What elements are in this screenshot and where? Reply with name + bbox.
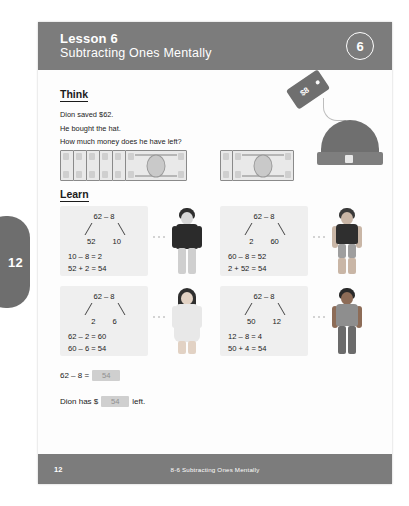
lesson-header: Lesson 6 Subtracting Ones Mentally 6 [38,22,392,70]
price-tag-amount: $8 [298,86,310,98]
number-bond-part-right: 12 [273,317,281,326]
worksheet-page: 12 Lesson 6 Subtracting Ones Mentally 6 … [0,0,409,506]
number-bond-expression: 62 – 8 [60,212,148,221]
lesson-number-badge: 6 [346,32,374,60]
footer-lesson-title: 8-6 Subtracting Ones Mentally [38,466,392,473]
money-illustration [60,148,372,184]
strategy-cell: 62 – 8 50 12 12 – 8 = 4 50 + 4 = 54 [220,286,370,356]
bill-portrait [147,154,166,177]
one-dollar-bill-front [232,150,294,181]
number-bond-parts: 52 10 [60,237,148,246]
number-bond-part-right: 6 [113,317,117,326]
student-figure-icon [164,288,210,356]
think-line-3: How much money does he have left? [60,135,182,149]
number-bond-work-box: 62 – 8 2 60 60 – 8 = 52 2 + 52 = 54 [220,206,308,276]
number-bond-branch-icon [60,223,148,237]
chapter-index-tab[interactable]: 12 [0,216,30,308]
ten-dollar-bill [86,150,100,181]
one-dollar-bill-stack [220,150,293,181]
worksheet-body: Think Dion saved $62. He bought the hat.… [38,70,392,454]
number-bond-work-box: 62 – 8 2 6 62 – 2 = 60 60 – 6 = 54 [60,286,148,356]
step-1: 10 – 8 = 2 [68,251,148,263]
number-bond-parts: 2 6 [60,317,148,326]
strategy-cell: 62 – 8 2 6 62 – 2 = 60 60 – 6 = 54 [60,286,210,356]
think-line-1: Dion saved $62. [60,108,182,122]
number-bond-expression: 62 – 8 [60,292,148,301]
learn-strategy-grid: 62 – 8 52 10 10 – 8 = 2 52 + 2 = 54 [60,206,372,358]
lesson-label: Lesson 6 [60,31,212,46]
ten-dollar-bill-stack [60,150,186,181]
student-figure-icon [324,208,370,276]
ten-dollar-bill-front [125,150,187,181]
lesson-title: Subtracting Ones Mentally [60,46,212,61]
bill-portrait [254,154,273,177]
number-bond-steps: 12 – 8 = 4 50 + 4 = 54 [228,331,308,355]
step-1: 62 – 2 = 60 [68,331,148,343]
student-figure-icon [164,208,210,276]
answer-input-sentence[interactable]: 54 [101,396,129,407]
number-bond-part-right: 60 [270,237,278,246]
step-2: 2 + 52 = 54 [228,263,308,275]
lesson-badge-number: 6 [356,39,363,54]
number-bond-part-left: 50 [247,317,255,326]
number-bond-branch-icon [220,223,308,237]
ten-dollar-bill [60,150,74,181]
ten-dollar-bill [99,150,113,181]
number-bond-parts: 2 60 [220,237,308,246]
answer-input-equation[interactable]: 54 [92,370,120,381]
number-bond-work-box: 62 – 8 52 10 10 – 8 = 2 52 + 2 = 54 [60,206,148,276]
price-tag-hole [315,80,321,86]
answer-equation-prefix: 62 – 8 = [60,371,89,380]
chapter-index-number: 12 [8,255,23,270]
number-bond-steps: 62 – 2 = 60 60 – 6 = 54 [68,331,148,355]
student-figure-icon [324,288,370,356]
ten-dollar-bill [112,150,126,181]
number-bond-part-left: 2 [91,317,95,326]
answer-sentence-prefix: Dion has $ [60,397,98,406]
step-2: 60 – 6 = 54 [68,343,148,355]
think-heading: Think [60,88,88,102]
learn-heading: Learn [60,188,89,202]
step-2: 50 + 4 = 54 [228,343,308,355]
worksheet-sheet: Lesson 6 Subtracting Ones Mentally 6 Thi… [38,22,392,484]
number-bond-part-left: 2 [249,237,253,246]
step-1: 12 – 8 = 4 [228,331,308,343]
number-bond-part-right: 10 [113,237,121,246]
ten-dollar-bill [73,150,87,181]
number-bond-steps: 60 – 8 = 52 2 + 52 = 54 [228,251,308,275]
number-bond-expression: 62 – 8 [220,292,308,301]
price-tag-string-icon [323,98,346,121]
strategy-cell: 62 – 8 52 10 10 – 8 = 2 52 + 2 = 54 [60,206,210,276]
page-footer: 12 8-6 Subtracting Ones Mentally [38,454,392,484]
think-line-2: He bought the hat. [60,122,182,136]
number-bond-part-left: 52 [87,237,95,246]
answer-sentence-suffix: left. [132,397,145,406]
number-bond-work-box: 62 – 8 50 12 12 – 8 = 4 50 + 4 = 54 [220,286,308,356]
step-2: 52 + 2 = 54 [68,263,148,275]
number-bond-branch-icon [220,303,308,317]
number-bond-expression: 62 – 8 [220,212,308,221]
strategy-cell: 62 – 8 2 60 60 – 8 = 52 2 + 52 = 54 [220,206,370,276]
lesson-header-titles: Lesson 6 Subtracting Ones Mentally [60,31,212,61]
number-bond-branch-icon [60,303,148,317]
number-bond-parts: 50 12 [220,317,308,326]
think-problem-text: Dion saved $62. He bought the hat. How m… [60,108,182,149]
step-1: 60 – 8 = 52 [228,251,308,263]
answer-line-sentence: Dion has $ 54 left. [60,396,145,407]
footer-page-number: 12 [54,465,62,474]
number-bond-steps: 10 – 8 = 2 52 + 2 = 54 [68,251,148,275]
answer-line-equation: 62 – 8 = 54 [60,370,120,381]
